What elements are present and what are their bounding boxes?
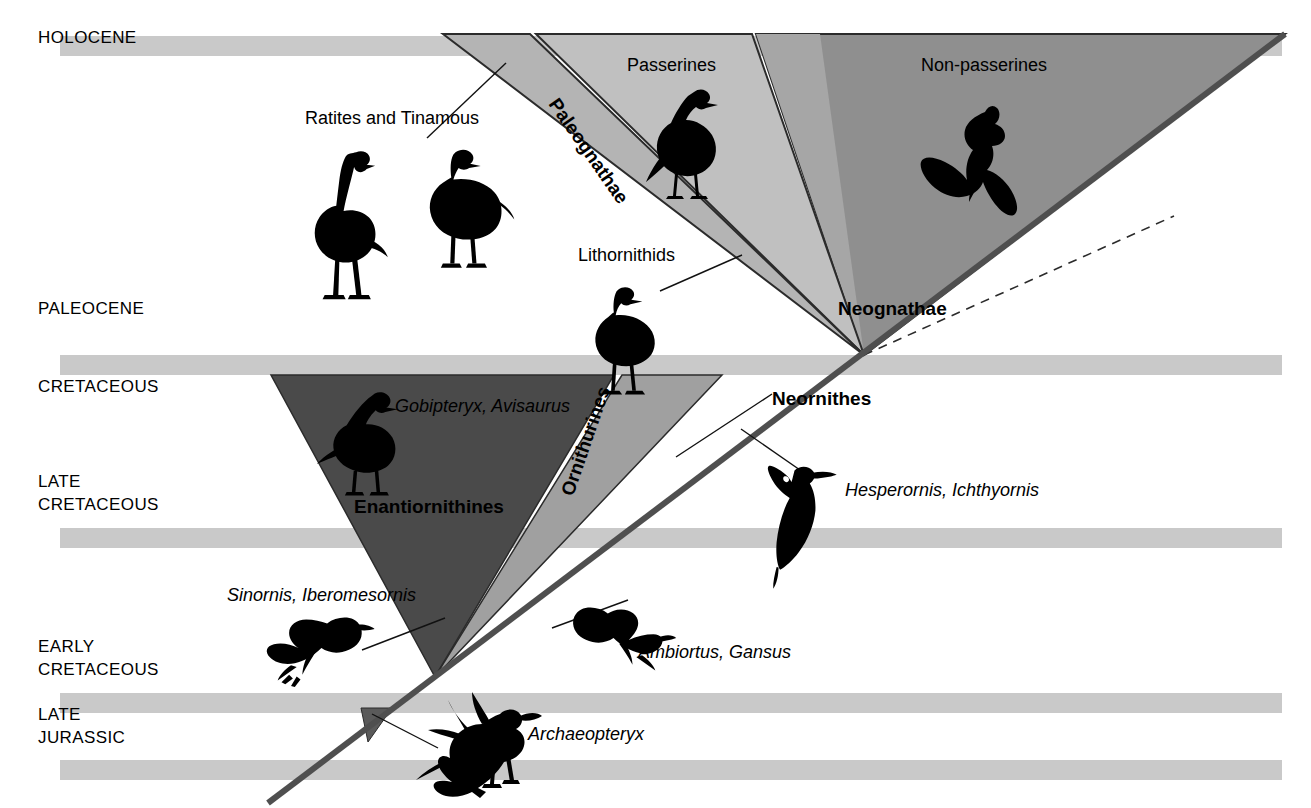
phylogeny-diagram-canvas: Paleognathae Neognathae Neornithes Enant… bbox=[0, 0, 1311, 808]
tinamou-silhouette bbox=[430, 150, 514, 268]
band-early-cretaceous bbox=[60, 693, 1282, 713]
group-label-non-passerines: Non-passerines bbox=[921, 55, 1047, 75]
era-label-early-cretaceous-line1: EARLY bbox=[38, 635, 159, 658]
era-label-late-cretaceous-line1: LATE bbox=[38, 470, 159, 493]
band-late-jurassic bbox=[60, 760, 1282, 780]
clade-label-neognathae: Neognathae bbox=[838, 298, 947, 319]
era-label-late-jurassic-line1: LATE bbox=[38, 703, 125, 726]
band-late-cretaceous bbox=[60, 528, 1282, 548]
era-label-early-cretaceous: EARLY CRETACEOUS bbox=[38, 635, 159, 681]
group-label-lithornithids: Lithornithids bbox=[578, 245, 675, 265]
taxa-label-hesperornis-ichthyornis: Hesperornis, Ichthyornis bbox=[845, 480, 1039, 500]
group-label-ratites-and-tinamous: Ratites and Tinamous bbox=[305, 108, 479, 128]
era-label-holocene: HOLOCENE bbox=[38, 26, 137, 49]
era-label-paleocene: PALEOCENE bbox=[38, 297, 144, 320]
taxa-label-gobipteryx-avisaurus: Gobipteryx, Avisaurus bbox=[395, 396, 570, 416]
era-label-early-cretaceous-line2: CRETACEOUS bbox=[38, 658, 159, 681]
band-paleocene bbox=[60, 355, 1282, 375]
taxa-label-ambiortus-gansus: Ambiortus, Gansus bbox=[637, 642, 791, 662]
era-label-cretaceous: CRETACEOUS bbox=[38, 375, 159, 398]
era-label-late-cretaceous-line2: CRETACEOUS bbox=[38, 493, 159, 516]
era-label-late-jurassic: LATE JURASSIC bbox=[38, 703, 125, 749]
leader-hesperornis bbox=[741, 429, 800, 470]
group-label-passerines: Passerines bbox=[627, 55, 716, 75]
diagram-svg: Paleognathae Neognathae Neornithes Enant… bbox=[0, 0, 1311, 808]
taxa-label-archaeopteryx: Archaeopteryx bbox=[527, 724, 645, 744]
clade-label-enantiornithines: Enantiornithines bbox=[354, 496, 504, 517]
era-label-late-jurassic-line2: JURASSIC bbox=[38, 726, 125, 749]
ostrich-silhouette bbox=[315, 151, 388, 299]
era-label-late-cretaceous: LATE CRETACEOUS bbox=[38, 470, 159, 516]
leader-archaeopteryx bbox=[372, 714, 438, 748]
sinornis-silhouette bbox=[267, 618, 375, 687]
clade-label-neornithes: Neornithes bbox=[772, 388, 871, 409]
taxa-label-sinornis-iberomesornis: Sinornis, Iberomesornis bbox=[227, 585, 416, 605]
hesperornis-silhouette bbox=[740, 457, 837, 597]
